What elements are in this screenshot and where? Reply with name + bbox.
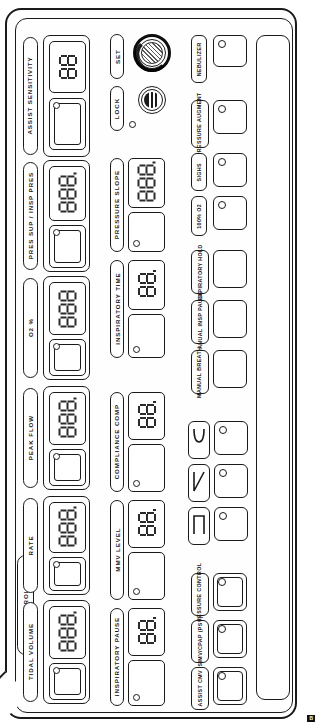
display-mmv-level (128, 500, 165, 548)
label-manual-insp-pause: MANUAL INSP PAUSE (191, 300, 209, 344)
sine-waveform-icon[interactable] (188, 421, 210, 459)
label-tidal-volume-text: TIDAL VOLUME (27, 623, 34, 680)
display-tidal-volume (49, 606, 86, 659)
button-100-percent-o2[interactable] (213, 196, 247, 230)
button-inner-outline (217, 671, 243, 701)
label-100-percent-o2-text: 100% O2 (196, 204, 203, 229)
label-manual-insp-pause-text: MANUAL INSP PAUSE (197, 291, 204, 354)
adjust-knob-inspiratory-time[interactable] (128, 314, 165, 358)
label-pressure-slope-text: PRESSURE SLOPE (113, 170, 120, 239)
blank-label-slot (256, 35, 290, 700)
display-pres-sup-insp-pres (49, 166, 86, 221)
label-pressure-slope: PRESSURE SLOPE (110, 158, 124, 252)
adjust-knob-pres-sup-insp-pres[interactable] (49, 225, 86, 268)
label-compliance-comp: COMPLIANCE COMP (110, 392, 124, 492)
seven-segment-digits (138, 165, 156, 202)
label-set: SET (110, 34, 124, 79)
adjust-knob-o2-percent[interactable] (49, 339, 86, 376)
label-assist-cmv-text: ASSIST CMV (197, 670, 204, 706)
descending-ramp-waveform-icon[interactable] (188, 464, 210, 502)
button-inner-outline (217, 624, 243, 654)
seven-segment-digits (59, 614, 77, 651)
indicator-led (218, 105, 226, 113)
label-o2-percent: O2 % (23, 278, 38, 378)
label-o2-percent-text: O2 % (27, 318, 34, 337)
button-manual-insp-pause[interactable] (213, 300, 247, 338)
label-nebulizer: NEBULIZER (191, 35, 207, 83)
label-compliance-comp-text: COMPLIANCE COMP (113, 404, 120, 479)
indicator-led (53, 561, 60, 568)
seven-segment-digits (138, 620, 156, 644)
adjust-knob-pressure-slope[interactable] (128, 212, 165, 252)
indicator-led (53, 667, 60, 674)
control-group-pres-sup-insp-pres (43, 160, 90, 272)
display-peak-flow (49, 392, 86, 445)
display-inspiratory-time (128, 260, 165, 310)
label-lock-text: LOCK (113, 98, 120, 119)
label-sighs: SIGHS (191, 153, 207, 191)
seven-segment-digits (59, 290, 77, 327)
button-sighs[interactable] (213, 153, 247, 187)
label-set-text: SET (113, 49, 120, 64)
adjust-knob-tidal-volume[interactable] (49, 663, 86, 700)
adjust-knob-assist-sensitivity[interactable] (49, 98, 86, 150)
rotary-knob-icon[interactable] (133, 34, 171, 72)
ventilator-control-panel: CONTROLS ASSIST SENSITIVITY PRES SUP / I… (5, 8, 297, 719)
label-manual-breath-text: MANUAL BREATH (197, 346, 204, 397)
label-peak-flow-text: PEAK FLOW (27, 415, 34, 460)
label-inspiratory-time-text: INSPIRATORY TIME (113, 273, 120, 345)
button-expiratory-hold[interactable] (213, 250, 247, 288)
control-group-peak-flow (43, 386, 90, 490)
label-rate: RATE (23, 498, 38, 593)
indicator-led (133, 480, 140, 487)
button-manual-breath[interactable] (213, 350, 247, 388)
button-descending-ramp-waveform[interactable] (214, 464, 248, 498)
square-waveform-icon[interactable] (188, 507, 210, 545)
button-square-waveform[interactable] (214, 507, 248, 541)
knob-inner-outline (54, 103, 81, 145)
lock-indicator-icon[interactable] (138, 86, 166, 114)
adjust-knob-rate[interactable] (49, 557, 86, 591)
button-sine-waveform[interactable] (214, 421, 248, 455)
display-o2-percent (49, 282, 86, 335)
display-rate (49, 502, 86, 553)
control-group-rate (43, 496, 90, 595)
label-mmv-level: MMV LEVEL (110, 500, 124, 600)
knob-grip-texture (141, 42, 163, 64)
adjust-knob-compliance-comp[interactable] (128, 444, 165, 492)
seven-segment-digits (59, 175, 77, 212)
label-lock: LOCK (110, 86, 124, 131)
seven-segment-digits (59, 400, 77, 437)
adjust-knob-inspiratory-pause[interactable] (128, 660, 165, 706)
button-pressure-control[interactable] (213, 573, 247, 611)
label-assist-cmv: ASSIST CMV (191, 667, 209, 710)
adjust-knob-peak-flow[interactable] (49, 449, 86, 486)
button-pressure-augment[interactable] (213, 100, 247, 134)
seven-segment-digits (138, 512, 156, 536)
seven-segment-digits (59, 509, 77, 546)
label-tidal-volume: TIDAL VOLUME (23, 602, 38, 702)
label-inspiratory-pause-text: INSPIRATORY PAUSE (113, 617, 120, 696)
button-assist-cmv[interactable] (213, 667, 247, 705)
control-group-o2-percent (43, 276, 90, 380)
label-rate-text: RATE (27, 536, 34, 556)
adjust-knob-mmv-level[interactable] (128, 552, 165, 600)
label-inspiratory-pause: INSPIRATORY PAUSE (110, 608, 124, 706)
button-simv-cpap-psv[interactable] (213, 620, 247, 658)
seven-segment-digits (138, 273, 156, 297)
label-pressure-control: PRESSURE CONTROL (191, 573, 209, 616)
indicator-led (218, 40, 226, 48)
indicator-led (218, 158, 226, 166)
button-inner-outline (217, 577, 243, 607)
label-inspiratory-time: INSPIRATORY TIME (110, 260, 124, 358)
indicator-led (219, 469, 227, 477)
lock-status-led (129, 121, 136, 128)
label-100-percent-o2: 100% O2 (191, 196, 207, 236)
label-mmv-level-text: MMV LEVEL (113, 528, 120, 572)
label-sighs-text: SIGHS (196, 163, 203, 181)
display-assist-sensitivity (49, 41, 86, 93)
button-nebulizer[interactable] (213, 35, 247, 67)
display-pressure-slope (128, 158, 165, 208)
indicator-led (133, 588, 140, 595)
label-peak-flow: PEAK FLOW (23, 388, 38, 488)
